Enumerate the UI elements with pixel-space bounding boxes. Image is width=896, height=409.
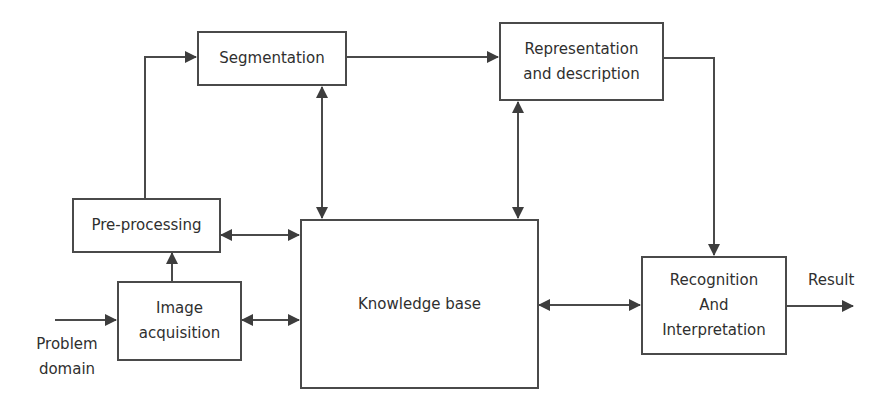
result-label: Result xyxy=(808,268,854,293)
acquisition-label-line2: acquisition xyxy=(139,321,220,346)
representation-label-line2: and description xyxy=(523,62,639,87)
acquisition-label-line1: Image xyxy=(156,296,203,321)
preprocessing-box: Pre-processing xyxy=(72,198,221,253)
preprocessing-label: Pre-processing xyxy=(91,213,201,238)
segmentation-box: Segmentation xyxy=(197,31,347,86)
image-acquisition-box: Image acquisition xyxy=(117,281,242,361)
representation-label-line1: Representation xyxy=(525,37,639,62)
recognition-label-line3: Interpretation xyxy=(662,318,766,343)
knowledge-base-label: Knowledge base xyxy=(358,292,481,317)
arrow-preprocessing-to-segmentation xyxy=(145,57,196,198)
recognition-label-line1: Recognition xyxy=(670,268,758,293)
problem-domain-label: Problem domain xyxy=(22,332,112,382)
segmentation-label: Segmentation xyxy=(219,46,324,71)
recognition-box: Recognition And Interpretation xyxy=(641,256,787,355)
knowledge-base-box: Knowledge base xyxy=(300,219,539,389)
representation-box: Representation and description xyxy=(499,22,664,101)
problem-domain-line1: Problem xyxy=(22,332,112,357)
recognition-label-line2: And xyxy=(699,293,728,318)
arrow-representation-to-recognition xyxy=(664,58,714,255)
problem-domain-line2: domain xyxy=(22,357,112,382)
